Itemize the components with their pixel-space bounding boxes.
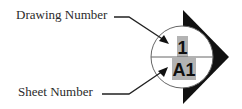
drawing-number-value: 1 (177, 37, 188, 57)
drawing-number-leader (114, 17, 164, 40)
sheet-number-value: A1 (172, 60, 196, 80)
sheet-number-leader (102, 71, 163, 94)
drawing-number-label: Drawing Number (16, 8, 107, 21)
callout-diagram: Drawing Number Sheet Number 1 A1 (0, 0, 242, 109)
sheet-number-label: Sheet Number (18, 85, 93, 98)
